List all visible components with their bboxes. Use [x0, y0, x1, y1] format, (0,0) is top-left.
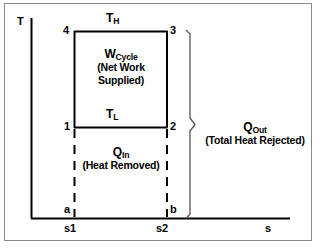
isotherm-high-subscript: H: [113, 16, 119, 26]
net-work-region-label: WCycle (Net Work Supplied): [74, 47, 168, 86]
heat-in-symbol-line: QIn: [70, 145, 172, 159]
heat-in-caption: (Heat Removed): [70, 159, 172, 171]
isotherm-low-label: TL: [106, 108, 118, 121]
net-work-caption-line1: (Net Work: [74, 61, 168, 73]
heat-in-region-label: QIn (Heat Removed): [70, 145, 172, 172]
state-point-3: 3: [170, 25, 176, 37]
heat-out-subscript: Out: [252, 125, 266, 135]
state-point-1: 1: [64, 121, 70, 133]
heat-out-caption: (Total Heat Rejected): [196, 134, 314, 146]
heat-out-region-label: QOut (Total Heat Rejected): [196, 120, 314, 147]
heat-in-symbol: Q: [113, 145, 122, 159]
state-point-4: 4: [63, 25, 69, 37]
heat-out-symbol-line: QOut: [196, 120, 314, 134]
ts-diagram-figure: T s TH TL 4 3 1 2 a b s1 s2 WCycle (Net …: [0, 0, 321, 248]
net-work-caption-line2: Supplied): [74, 74, 168, 86]
entropy-tick-s2: s2: [156, 223, 168, 235]
state-point-b: b: [170, 204, 177, 216]
net-work-symbol: W: [104, 47, 115, 61]
isotherm-high-label: TH: [106, 12, 119, 25]
entropy-tick-s1: s1: [64, 223, 76, 235]
net-work-subscript: Cycle: [116, 52, 138, 62]
x-axis-label: s: [265, 223, 271, 235]
heat-rejected-brace: [186, 30, 195, 219]
state-point-a: a: [64, 204, 70, 216]
state-point-2: 2: [170, 121, 176, 133]
net-work-symbol-line: WCycle: [74, 47, 168, 61]
isotherm-low-subscript: L: [113, 112, 118, 122]
y-axis-label: T: [17, 16, 24, 28]
heat-in-subscript: In: [122, 150, 129, 160]
